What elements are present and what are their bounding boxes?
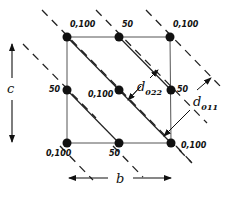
atom: [63, 86, 72, 95]
atom: [115, 86, 124, 95]
b-axis-label: b: [116, 172, 124, 185]
point-label: 0,100: [46, 150, 71, 158]
d022-label: d022: [137, 80, 162, 96]
point-label: 0,100: [70, 21, 95, 29]
d011-label: d011: [193, 95, 218, 111]
point-label: 0,100: [181, 142, 206, 150]
atom: [63, 139, 72, 148]
atom: [166, 33, 175, 42]
point-label: 50: [122, 21, 133, 29]
c-axis-label: c: [7, 82, 14, 95]
atom: [115, 139, 124, 148]
atom: [63, 33, 72, 42]
point-label: 0,100: [88, 91, 113, 99]
lattice-plane-diagram: 0,100 50 0,100 50 0,100 50 0,100 50 0,10…: [0, 0, 232, 199]
atom: [167, 139, 176, 148]
point-label: 50: [109, 150, 120, 158]
point-label: 50: [177, 86, 188, 94]
atom: [115, 33, 124, 42]
atom: [167, 86, 176, 95]
point-label: 0,100: [173, 21, 198, 29]
point-label: 50: [49, 86, 60, 94]
